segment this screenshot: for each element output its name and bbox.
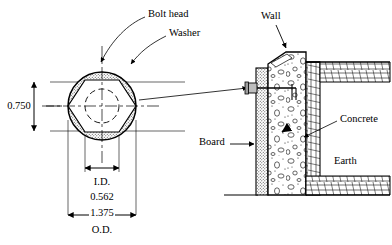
earth-vertical-band [306,62,320,195]
concrete-wall-body [268,52,306,195]
bolt-head-side [248,83,257,93]
diagram-canvas: 0.750 I.D. 0.562 1.375 O.D. Bolt head Wa… [0,0,392,245]
dimension-across-flats-value: 0.750 [7,100,31,111]
dimension-inner-diameter-value: 0.562 [90,191,114,202]
dimension-outer-diameter-value: 1.375 [90,207,114,218]
dimension-inner-diameter-label: I.D. [94,176,110,187]
callout-washer-label: Washer [169,27,201,38]
callout-earth-label: Earth [334,155,357,166]
dimension-outer-diameter-label: O.D. [92,224,112,235]
callout-board-label: Board [199,136,225,147]
washer-side [245,82,249,94]
callout-concrete-label: Concrete [340,113,378,124]
earth-lower-shelf [306,176,390,195]
engineering-diagram: 0.750 I.D. 0.562 1.375 O.D. Bolt head Wa… [0,0,392,245]
board-layer [256,68,268,195]
callout-bolt-head-label: Bolt head [148,8,189,19]
callout-wall-label: Wall [261,10,281,21]
